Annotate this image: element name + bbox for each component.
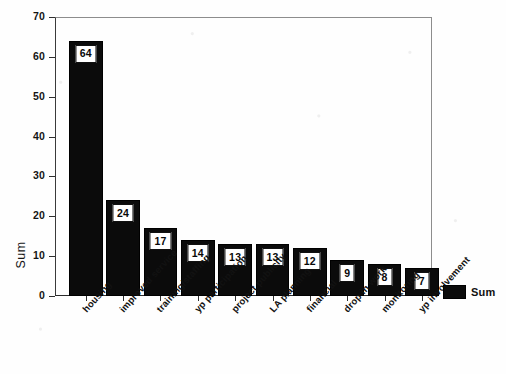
x-axis-labels: housingimproved servicetraining/staffing… (55, 301, 445, 374)
y-axis-tick-mark (49, 296, 55, 297)
bar-group[interactable]: 24 (106, 17, 140, 296)
y-axis-tick-label: 60 (33, 50, 45, 62)
bar-value-label: 24 (113, 204, 134, 222)
bar-group[interactable]: 8 (368, 17, 402, 296)
y-axis-tick-label: 50 (33, 90, 45, 102)
y-axis-tick-label: 0 (39, 289, 45, 301)
bar-group[interactable]: 9 (330, 17, 364, 296)
bar-group[interactable]: 14 (181, 17, 215, 296)
y-axis-tick-label: 40 (33, 130, 45, 142)
bar-group[interactable]: 12 (293, 17, 327, 296)
bar[interactable] (69, 41, 103, 296)
y-axis-tick-label: 20 (33, 209, 45, 221)
y-axis-tick-label: 30 (33, 169, 45, 181)
bar-value-label: 17 (150, 232, 171, 250)
bar-value-label: 9 (340, 264, 355, 282)
legend-label-sum: Sum (471, 286, 495, 298)
legend-swatch-sum (443, 285, 466, 299)
bar-group[interactable]: 64 (69, 17, 103, 296)
chart-legend: Sum (443, 285, 495, 299)
bar-value-label: 64 (75, 45, 96, 63)
y-axis-title: Sum (14, 225, 28, 285)
y-axis-tick-label: 70 (33, 10, 45, 22)
bar-group[interactable]: 7 (405, 17, 439, 296)
y-axis-tick-label: 10 (33, 249, 45, 261)
bar-group[interactable]: 13 (218, 17, 252, 296)
bar-chart-figure: 706050403020100 Sum 64241714131312987 ho… (0, 0, 506, 374)
